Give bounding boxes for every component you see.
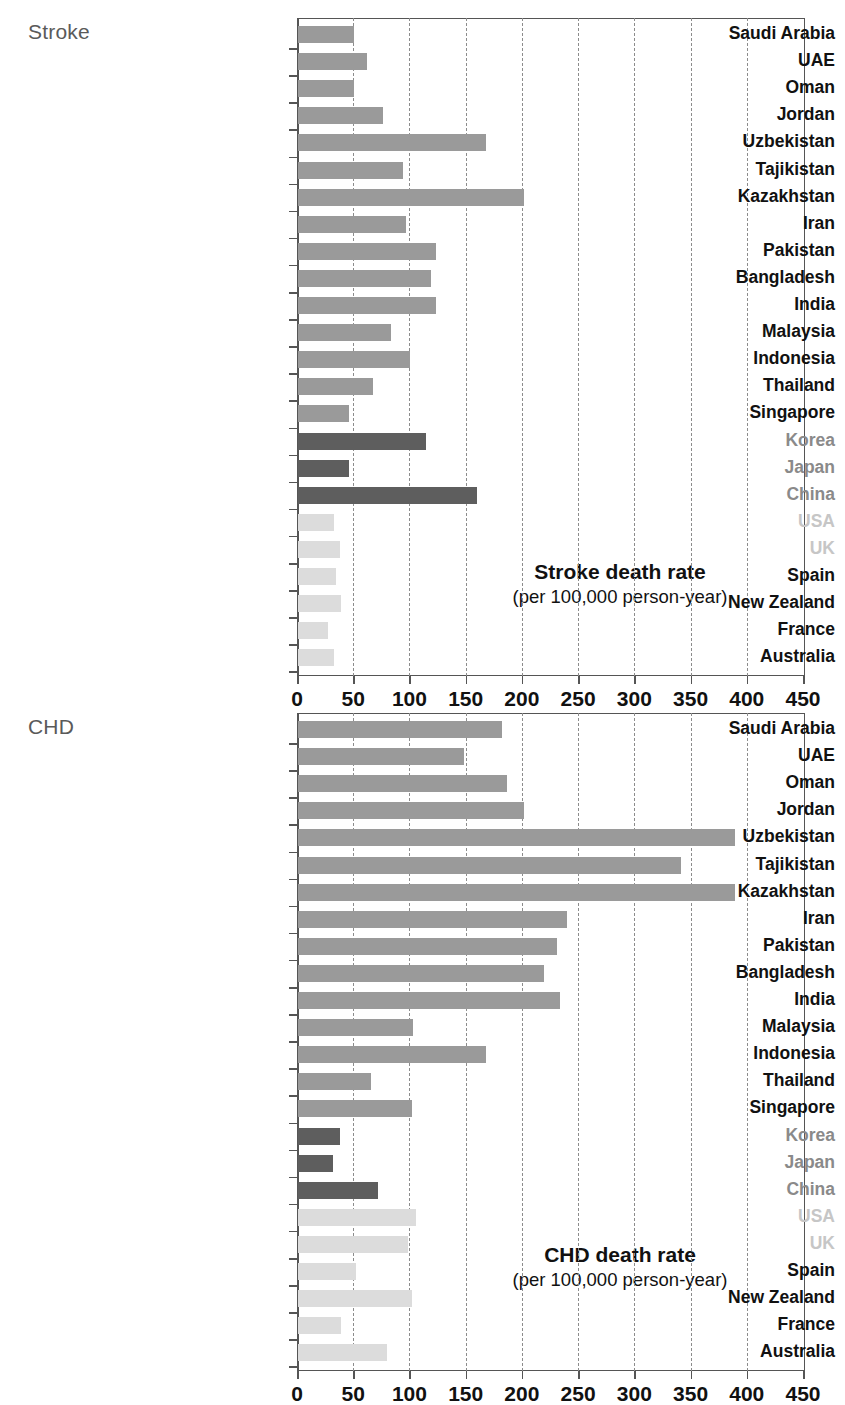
category-label-uae: UAE [590,50,845,71]
y-tick-8 [289,960,297,962]
bar-chd-singapore [298,1100,412,1117]
bar-stroke-malaysia [298,324,391,341]
bar-stroke-australia [298,649,334,666]
category-label-india: India [590,294,845,315]
category-label-indonesia: Indonesia [590,1043,845,1064]
y-tick-13 [289,1095,297,1097]
x-tick-label-450: 450 [785,1382,820,1405]
x-tick-450 [803,676,805,684]
category-label-malaysia: Malaysia [590,1016,845,1037]
y-tick-14 [289,428,297,430]
x-tick-label-100: 100 [392,1382,427,1405]
x-tick-350 [691,1371,693,1379]
y-tick-22 [289,644,297,646]
chd-panel: CHD CHD death rate (per 100,000 person-y… [0,700,845,1405]
x-tick-label-150: 150 [448,1382,483,1405]
y-tick-7 [289,933,297,935]
category-label-saudi-arabia: Saudi Arabia [590,23,845,44]
x-tick-200 [522,1371,524,1379]
category-label-oman: Oman [590,772,845,793]
x-tick-label-350: 350 [673,1382,708,1405]
bar-chd-malaysia [298,1019,413,1036]
bar-stroke-korea [298,433,426,450]
bar-stroke-pakistan [298,243,436,260]
category-label-uae: UAE [590,745,845,766]
y-tick-4 [289,157,297,159]
bar-chd-pakistan [298,938,557,955]
bar-stroke-bangladesh [298,270,431,287]
category-label-france: France [590,1314,845,1335]
y-tick-6 [289,211,297,213]
y-tick-11 [289,346,297,348]
x-tick-150 [466,1371,468,1379]
category-label-kazakhstan: Kazakhstan [590,881,845,902]
bar-chd-thailand [298,1073,371,1090]
gridline-150 [466,18,467,676]
y-tick-18 [289,1231,297,1233]
category-label-france: France [590,619,845,640]
category-label-bangladesh: Bangladesh [590,962,845,983]
y-tick-15 [289,455,297,457]
bar-chd-japan [298,1155,333,1172]
gridline-250 [578,18,579,676]
stroke-panel-caption: Stroke [28,20,90,44]
x-tick-50 [353,676,355,684]
category-label-japan: Japan [590,457,845,478]
y-tick-2 [289,102,297,104]
x-tick-450 [803,1371,805,1379]
category-label-korea: Korea [590,1125,845,1146]
x-tick-label-200: 200 [504,1382,539,1405]
x-tick-label-0: 0 [291,1382,303,1405]
x-tick-350 [691,676,693,684]
y-tick-20 [289,1285,297,1287]
category-label-oman: Oman [590,77,845,98]
category-label-korea: Korea [590,430,845,451]
bar-stroke-singapore [298,405,349,422]
category-label-jordan: Jordan [590,104,845,125]
y-tick-5 [289,879,297,881]
y-tick-17 [289,1204,297,1206]
y-tick-3 [289,824,297,826]
category-label-saudi-arabia: Saudi Arabia [590,718,845,739]
bar-stroke-uk [298,541,340,558]
y-tick-11 [289,1041,297,1043]
x-tick-300 [634,676,636,684]
bar-stroke-china [298,487,477,504]
bar-chd-france [298,1317,341,1334]
category-label-malaysia: Malaysia [590,321,845,342]
y-tick-10 [289,1014,297,1016]
bar-chd-uk [298,1236,408,1253]
x-tick-label-250: 250 [561,1382,596,1405]
x-tick-0 [297,676,299,684]
gridline-250 [578,713,579,1371]
category-label-india: India [590,989,845,1010]
category-label-usa: USA [590,511,845,532]
y-tick-17 [289,509,297,511]
bar-chd-iran [298,911,567,928]
y-tick-19 [289,563,297,565]
category-label-china: China [590,484,845,505]
y-tick-5 [289,184,297,186]
y-tick-16 [289,482,297,484]
category-label-uk: UK [590,538,845,559]
y-tick-3 [289,129,297,131]
category-label-uk: UK [590,1233,845,1254]
x-tick-label-300: 300 [617,1382,652,1405]
y-tick-15 [289,1150,297,1152]
category-label-new-zealand: New Zealand [590,1287,845,1308]
gridline-100 [409,18,410,676]
y-tick-2 [289,797,297,799]
bar-stroke-iran [298,216,406,233]
category-label-australia: Australia [590,646,845,667]
category-label-tajikistan: Tajikistan [590,159,845,180]
bar-chd-australia [298,1344,387,1361]
bar-chd-korea [298,1128,340,1145]
x-tick-100 [409,1371,411,1379]
chd-panel-caption: CHD [28,715,74,739]
y-tick-23 [289,671,297,673]
y-tick-4 [289,852,297,854]
bar-chd-bangladesh [298,965,544,982]
category-label-pakistan: Pakistan [590,935,845,956]
bar-stroke-thailand [298,378,373,395]
category-label-pakistan: Pakistan [590,240,845,261]
